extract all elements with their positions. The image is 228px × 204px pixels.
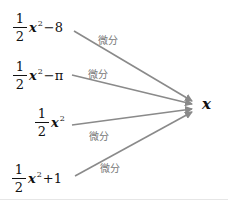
exponent: 2 — [38, 19, 43, 28]
target-variable: x — [202, 95, 211, 113]
constant-term: −8 — [44, 20, 63, 35]
edge-label-3: 微分 — [89, 128, 109, 143]
edge-label-1: 微分 — [98, 32, 118, 47]
source-formula-3: 1 2 x 2 — [35, 107, 66, 138]
exponent: 2 — [38, 67, 43, 76]
bottom-divider — [0, 199, 228, 200]
exponent: 2 — [37, 170, 42, 179]
source-formula-4: 1 2 x 2 +1 — [12, 163, 62, 194]
exponent: 2 — [60, 114, 65, 123]
variable: x — [28, 171, 36, 186]
fraction: 1 2 — [35, 107, 49, 138]
variable: x — [29, 68, 37, 83]
source-formula-1: 1 2 x 2 −8 — [13, 12, 63, 43]
edge-label-4: 微分 — [100, 160, 120, 175]
fraction: 1 2 — [13, 12, 27, 43]
constant-term: −π — [44, 68, 63, 83]
constant-term: +1 — [43, 171, 62, 186]
variable: x — [51, 115, 59, 130]
variable: x — [29, 20, 37, 35]
fraction: 1 2 — [13, 60, 27, 91]
source-formula-2: 1 2 x 2 −π — [13, 60, 63, 91]
fraction: 1 2 — [12, 163, 26, 194]
derivative-diagram: 1 2 x 2 −8 微分 1 2 x 2 −π 微分 1 2 x 2 微分 1 — [0, 0, 228, 204]
edge-label-2: 微分 — [88, 66, 108, 81]
